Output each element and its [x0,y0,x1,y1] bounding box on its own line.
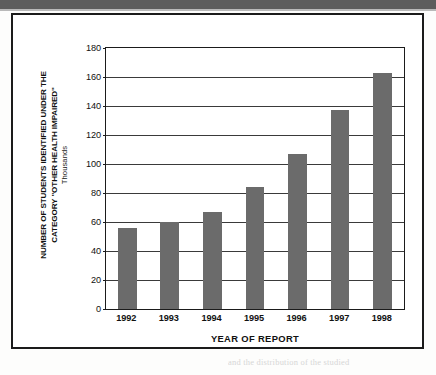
figure-frame: NUMBER OF STUDENTS IDENTIFIED UNDER THE … [11,13,424,349]
x-axis-tick-label-1993: 1993 [159,313,179,323]
x-axis-tick-label-1994: 1994 [201,313,221,323]
x-axis-tick-label-1992: 1992 [116,313,136,323]
y-axis-tick-label: 20 [91,275,101,285]
bar-1996 [288,154,307,309]
y-axis-tick-label: 0 [96,304,101,314]
y-axis-tick-label: 160 [86,72,101,82]
page-bleed-text: and the distribution of the studied [228,357,434,371]
bar-1994 [203,212,222,309]
y-axis-tick-label: 100 [86,159,101,169]
bar-1992 [118,228,137,309]
bar-chart: NUMBER OF STUDENTS IDENTIFIED UNDER THE … [13,15,422,347]
x-axis-tick-label-1997: 1997 [329,313,349,323]
page-top-band-edge [0,9,436,11]
x-axis-title: YEAR OF REPORT [105,333,405,344]
y-axis-tick-label: 180 [86,43,101,53]
page-top-band [0,0,436,9]
scanned-page: NUMBER OF STUDENTS IDENTIFIED UNDER THE … [0,0,436,375]
y-axis-tick-label: 140 [86,101,101,111]
y-axis-subtitle-container: Thousands [51,25,77,305]
plot-area: 020406080100120140160180 [105,47,405,310]
x-axis-tick-label-1996: 1996 [287,313,307,323]
y-axis-tick-mark [103,309,106,310]
x-axis-tick-label-1995: 1995 [244,313,264,323]
y-axis-tick-label: 40 [91,246,101,256]
bars [106,48,404,309]
bar-1998 [373,73,392,309]
y-axis-tick-label: 80 [91,188,101,198]
y-axis-units-label: Thousands [60,65,69,265]
y-axis-tick-label: 120 [86,130,101,140]
x-axis-tick-labels: 1992199319941995199619971998 [105,313,405,327]
bar-1995 [246,187,265,309]
x-axis-tick-label-1998: 1998 [372,313,392,323]
bar-1997 [331,110,350,309]
y-axis-tick-label: 60 [91,217,101,227]
bar-1993 [160,222,179,309]
